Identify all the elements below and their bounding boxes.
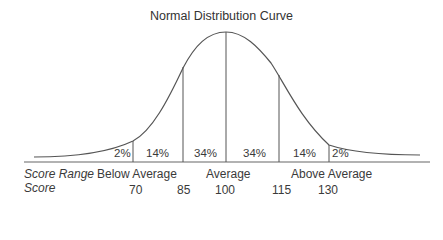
score-range-header: Score Range [24,167,94,181]
below-average-label: Below Average [97,167,177,181]
score-value: 130 [318,183,338,197]
score-value: 70 [129,183,142,197]
average-label: Average [206,167,250,181]
segment-label: 34% [194,147,217,159]
score-value: 115 [272,183,291,197]
segment-label: 2% [114,147,131,159]
score-value: 100 [215,183,235,197]
segment-label: 2% [332,147,349,159]
above-average-label: Above Average [291,167,372,181]
score-value: 85 [177,183,190,197]
bell-curve [34,32,420,157]
segment-label: 14% [146,147,169,159]
segment-label: 34% [243,147,266,159]
segment-label: 14% [293,147,316,159]
score-header: Score [24,181,55,195]
